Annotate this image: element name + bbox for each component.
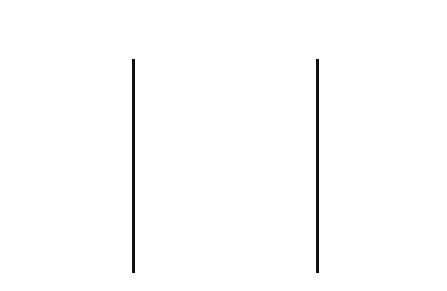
- well-shaft: [132, 59, 319, 273]
- figure-canvas: [0, 0, 447, 291]
